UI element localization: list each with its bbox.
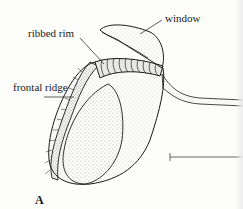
- label-ribbed-rim: ribbed rim: [28, 28, 74, 39]
- tendril: [162, 74, 243, 106]
- scale-bar: [170, 153, 243, 161]
- page-edge-shadow: [235, 0, 243, 209]
- label-frontal-ridge: frontal ridge: [13, 82, 68, 93]
- ribbed-rim-leader: [80, 38, 104, 64]
- panel-letter: A: [35, 193, 44, 208]
- label-window: window: [165, 13, 200, 24]
- pitcher-diagram: window ribbed rim frontal ridge A: [0, 0, 243, 209]
- window-leader: [140, 20, 162, 34]
